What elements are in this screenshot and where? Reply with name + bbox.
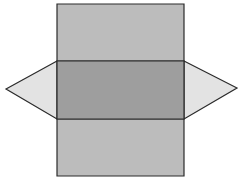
top-rectangle-face <box>57 4 184 61</box>
middle-rectangle-face <box>57 61 184 119</box>
left-triangle-face <box>6 61 57 119</box>
triangular-prism-net-diagram <box>0 0 244 186</box>
bottom-rectangle-face <box>57 119 184 176</box>
right-triangle-face <box>184 61 237 119</box>
